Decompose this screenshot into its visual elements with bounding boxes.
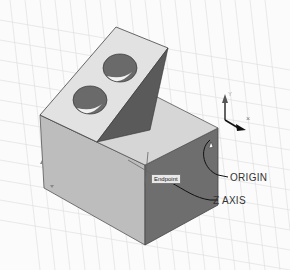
3d-viewport[interactable]: Y × Endpoint ORIGIN Z AXIS bbox=[0, 0, 290, 270]
hole-upper bbox=[103, 54, 137, 82]
svg-text:×: × bbox=[246, 115, 250, 122]
origin-label: ORIGIN bbox=[230, 172, 267, 183]
model-scene: Y × bbox=[0, 0, 290, 270]
hole-lower bbox=[73, 86, 107, 114]
endpoint-snap-tooltip: Endpoint bbox=[151, 174, 181, 184]
svg-text:Y: Y bbox=[228, 91, 232, 97]
z-axis-label: Z AXIS bbox=[213, 195, 246, 206]
